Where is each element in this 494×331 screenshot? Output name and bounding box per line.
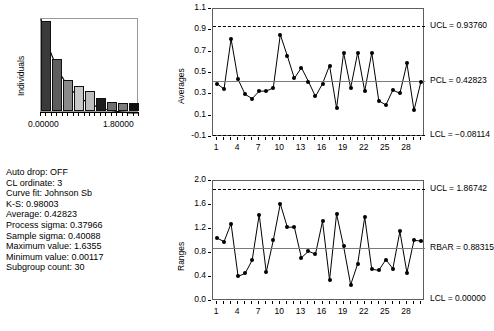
x-axis-tick xyxy=(329,137,330,140)
data-point xyxy=(363,215,367,219)
y-tick-label: 1.2 xyxy=(168,223,206,232)
y-tick-label: 1.6 xyxy=(168,199,206,208)
info-line-minimum-value: Minimum value: 0.00117 xyxy=(6,252,166,263)
x-axis-tick xyxy=(371,301,372,304)
x-axis-tick xyxy=(244,137,245,140)
data-point xyxy=(384,103,388,107)
data-point xyxy=(229,222,233,226)
histogram-x-tick xyxy=(105,112,106,116)
x-axis-tick xyxy=(286,137,287,140)
y-axis-tick xyxy=(208,136,211,137)
x-axis-tick xyxy=(307,301,308,304)
data-point xyxy=(222,87,226,91)
data-point xyxy=(321,219,325,223)
x-axis-tick xyxy=(413,301,414,304)
x-axis-tick xyxy=(244,301,245,304)
y-axis-tick xyxy=(208,72,211,73)
y-tick-label: 0.3 xyxy=(168,88,206,97)
data-point xyxy=(335,212,339,216)
histogram-x-tick xyxy=(127,112,128,116)
x-axis-tick xyxy=(399,137,400,140)
x-axis-tick xyxy=(251,137,252,140)
x-tick-label: 28 xyxy=(400,307,412,316)
x-axis-tick xyxy=(406,137,407,140)
y-tick-label: 0.7 xyxy=(168,46,206,55)
statistics-summary-block: Auto drop: OFF CL ordinate: 3 Curve fit:… xyxy=(6,167,166,273)
histogram-x-tick xyxy=(62,112,63,116)
info-line-average: Average: 0.42823 xyxy=(6,209,166,220)
x-tick-label: 28 xyxy=(400,143,412,152)
x-tick-label: 25 xyxy=(379,307,391,316)
x-axis-tick xyxy=(336,301,337,304)
data-point xyxy=(328,64,332,68)
histogram-panel: Individuals 0.00000 1.80000 xyxy=(0,0,165,165)
y-tick-label: 0.4 xyxy=(168,271,206,280)
y-axis-tick xyxy=(208,276,211,277)
x-axis-tick xyxy=(322,137,323,140)
x-axis-tick xyxy=(350,301,351,304)
histogram-x-tick xyxy=(89,112,90,116)
lcl-label: LCL = −0.08114 xyxy=(430,129,490,139)
x-axis-tick xyxy=(251,301,252,304)
y-tick-label: 1.1 xyxy=(168,3,206,12)
x-axis-tick xyxy=(364,137,365,140)
x-axis-tick xyxy=(223,137,224,140)
data-point xyxy=(250,97,254,101)
histogram-x-tick xyxy=(45,112,46,116)
x-axis-tick xyxy=(399,301,400,304)
ranges-series xyxy=(213,181,425,301)
x-axis-tick xyxy=(343,301,344,304)
x-tick-label: 22 xyxy=(358,143,370,152)
y-axis-tick xyxy=(208,300,211,301)
histogram-x-tick-min: 0.00000 xyxy=(28,120,59,129)
y-tick-label: -0.1 xyxy=(168,131,206,140)
x-axis-tick xyxy=(265,137,266,140)
x-axis-tick xyxy=(279,137,280,140)
x-tick-label: 10 xyxy=(273,307,285,316)
histogram-x-tick xyxy=(73,112,74,116)
x-tick-label: 16 xyxy=(316,307,328,316)
data-point xyxy=(222,240,226,244)
y-tick-label: 2.0 xyxy=(168,175,206,184)
y-tick-label: 0.8 xyxy=(168,247,206,256)
x-tick-label: 4 xyxy=(231,307,243,316)
histogram-x-tick xyxy=(122,112,123,116)
ucl-label: UCL = 1.86742 xyxy=(430,183,487,193)
data-point xyxy=(363,89,367,93)
x-tick-label: 25 xyxy=(379,143,391,152)
x-axis-tick xyxy=(357,301,358,304)
data-point xyxy=(328,278,332,282)
x-axis-tick xyxy=(385,137,386,140)
averages-plot-area xyxy=(212,8,424,136)
histogram-bar xyxy=(85,91,95,111)
x-axis-tick xyxy=(336,137,337,140)
x-axis-tick xyxy=(307,137,308,140)
data-point xyxy=(391,88,395,92)
x-tick-label: 10 xyxy=(273,143,285,152)
x-tick-label: 13 xyxy=(294,143,306,152)
data-point xyxy=(215,236,219,240)
data-point xyxy=(384,258,388,262)
histogram-x-tick xyxy=(84,112,85,116)
x-axis-tick xyxy=(385,301,386,304)
x-axis-tick xyxy=(272,301,273,304)
y-axis-tick xyxy=(208,180,211,181)
x-axis-tick xyxy=(364,301,365,304)
histogram-plot-area xyxy=(40,18,138,112)
x-axis-tick xyxy=(258,301,259,304)
histogram-x-tick xyxy=(116,112,117,116)
info-line-auto-drop: Auto drop: OFF xyxy=(6,167,166,178)
x-axis-tick xyxy=(420,137,421,140)
x-axis-tick xyxy=(413,137,414,140)
x-axis-tick xyxy=(216,137,217,140)
data-point xyxy=(356,51,360,55)
info-line-ks: K-S: 0.98003 xyxy=(6,199,166,210)
x-tick-label: 22 xyxy=(358,307,370,316)
data-point xyxy=(391,267,395,271)
x-axis-tick xyxy=(378,137,379,140)
x-axis-tick xyxy=(300,301,301,304)
x-tick-label: 4 xyxy=(231,143,243,152)
x-axis-tick xyxy=(272,137,273,140)
data-point xyxy=(419,80,423,84)
x-axis-tick xyxy=(230,137,231,140)
